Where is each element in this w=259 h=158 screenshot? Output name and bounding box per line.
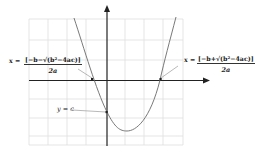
- left-root-numerator: [−b−√(b²−4ac)]: [24, 56, 82, 65]
- left-root-fraction: [−b−√(b²−4ac)] 2a: [24, 56, 82, 75]
- right-root-fraction: [−b+√(b²−4ac)] 2a: [197, 55, 255, 74]
- right-root-numerator: [−b+√(b²−4ac)]: [197, 55, 255, 64]
- right-root-denominator: 2a: [197, 64, 255, 74]
- parabola-graph: [0, 0, 259, 158]
- point-markers: [91, 78, 162, 113]
- x-axis-arrow-icon: [203, 78, 210, 84]
- left-root-prefix: x =: [9, 57, 20, 64]
- y-axis-arrow-icon: [104, 5, 110, 12]
- left-root-denominator: 2a: [24, 65, 82, 75]
- y-intercept-label: y = c: [57, 105, 74, 113]
- right-root-prefix: x =: [184, 56, 195, 63]
